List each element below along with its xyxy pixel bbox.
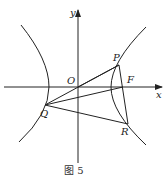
point-R-label: R [120,126,129,137]
x-axis-label: x [156,89,162,100]
point-F-label: F [126,74,135,85]
point-Q-label: Q [40,108,48,119]
segment-QP [45,65,119,105]
hyperbola-left-branch [19,25,49,142]
point-P-label: P [112,52,120,63]
segment-QF [45,87,123,105]
y-axis-label: y [69,7,76,18]
origin-label: O [67,75,75,86]
segment-QR [45,105,128,124]
hyperbola-diagram: y x O P F Q R 图 5 [0,0,168,179]
figure-caption: 图 5 [64,165,84,176]
